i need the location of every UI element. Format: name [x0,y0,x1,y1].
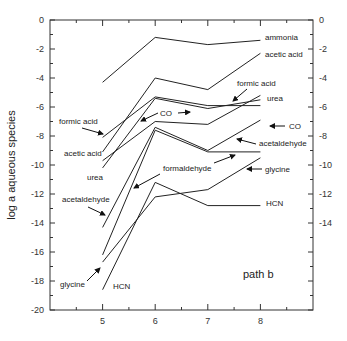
label-formaldehyde: formaldehyde [163,164,212,173]
label-formic-acid-right: formic acid [237,79,276,88]
y-tick-label-left: -6 [36,102,44,112]
arrow-formic-acid-left [82,128,103,134]
y-tick-label-left: -14 [31,218,44,228]
x-tick-label: 6 [153,316,158,326]
y-tick-label-left: -8 [36,131,44,141]
label-acetaldehyde-right: acetaldehyde [259,139,307,148]
label-glycine-right: glycine [265,165,290,174]
y-tick-label-left: -12 [31,189,44,199]
label-formic-acid-left: formic acid [59,117,98,126]
label-acetaldehyde-left: acetaldehyde [62,195,110,204]
y-tick-label-right: 0 [319,15,324,25]
y-tick-label-right: -2 [319,44,327,54]
arrow-formic-acid-right [233,89,247,101]
y-tick-label-right: -6 [319,102,327,112]
arrow-acetaldehyde-right [237,139,256,144]
x-tick-label: 8 [258,316,263,326]
series-ammonia [103,37,261,82]
series-glycine [103,158,261,262]
label-urea-left: urea [87,173,104,182]
label-hcn-right: HCN [266,199,284,208]
y-axis-left: 0-2-4-6-8-10-12-14-16-18-20 [31,15,55,315]
x-tick-label: 5 [100,316,105,326]
y-tick-label-left: 0 [39,15,44,25]
y-tick-label-left: -2 [36,44,44,54]
y-axis-label: log a aqueous species [5,110,17,220]
label-glycine-left: glycine [60,280,85,289]
series-formaldehyde [103,130,261,255]
chart: 0-2-4-6-8-10-12-14-16-18-20 0-2-4-6-8-10… [0,0,347,341]
label-acetic-acid-right: acetic acid [265,50,303,59]
label-co-middle: CO [160,109,172,118]
y-tick-label-right: -12 [319,189,332,199]
label-urea-right: urea [267,94,284,103]
panel-label: path b [243,268,274,280]
y-tick-label-right: -10 [319,160,332,170]
label-hcn-left: HCN [113,282,131,291]
y-axis-right: 0-2-4-6-8-10-12-14 [308,15,332,310]
arrow-formaldehyde-left [134,174,160,188]
arrow-co-right-mid [178,112,190,113]
arrow-acetaldehyde-left [88,207,105,215]
y-tick-label-right: -4 [319,73,327,83]
label-co-right: CO [289,122,301,131]
y-tick-label-left: -20 [31,305,44,315]
y-tick-label-left: -16 [31,247,44,257]
y-tick-label-right: -14 [319,218,332,228]
label-ammonia-right: ammonia [265,33,298,42]
label-acetic-acid-left: acetic acid [64,149,102,158]
y-tick-label-left: -4 [36,73,44,83]
arrow-formaldehyde-right [214,155,235,163]
y-tick-label-left: -10 [31,160,44,170]
y-tick-label-right: -8 [319,131,327,141]
y-tick-label-left: -18 [31,276,44,286]
x-tick-label: 7 [205,316,210,326]
arrow-glycine-left [87,268,100,281]
